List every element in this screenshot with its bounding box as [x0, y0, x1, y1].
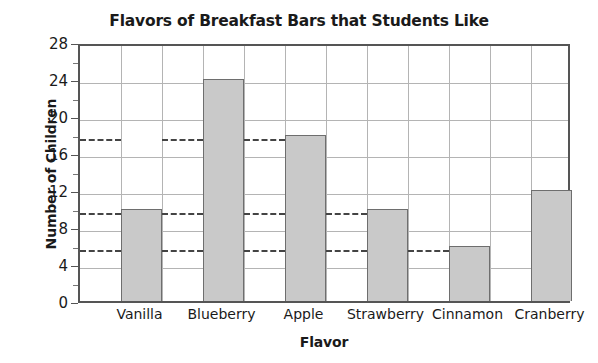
x-tick-label-blueberry: Blueberry [187, 306, 255, 322]
y-axis-title: Number of Children [43, 84, 59, 264]
x-axis-title: Flavor [78, 334, 570, 350]
chart-title: Flavors of Breakfast Bars that Students … [0, 12, 598, 30]
y-tick-label: 0 [28, 294, 68, 312]
y-tick-minor [73, 285, 78, 286]
y-tick-major [71, 303, 78, 304]
y-tick-major [71, 266, 78, 267]
y-tick-major [71, 81, 78, 82]
x-tick-label-strawberry: Strawberry [347, 306, 424, 322]
bar-cinnamon [449, 246, 490, 302]
bar-blueberry [203, 79, 244, 301]
x-tick-label-cranberry: Cranberry [514, 306, 584, 322]
y-tick-major [71, 118, 78, 119]
y-tick-label: 28 [28, 35, 68, 53]
x-tick-label-vanilla: Vanilla [116, 306, 162, 322]
y-tick-minor [73, 137, 78, 138]
y-tick-major [71, 229, 78, 230]
y-tick-major [71, 192, 78, 193]
y-tick-major [71, 44, 78, 45]
bar-apple [285, 135, 326, 302]
y-tick-minor [73, 100, 78, 101]
x-tick-label-cinnamon: Cinnamon [432, 306, 503, 322]
bar-strawberry [367, 209, 408, 302]
x-tick-label-apple: Apple [284, 306, 324, 322]
y-tick-minor [73, 248, 78, 249]
x-axis-tick-labels: VanillaBlueberryAppleStrawberryCinnamonC… [78, 306, 570, 330]
y-tick-minor [73, 174, 78, 175]
y-tick-major [71, 155, 78, 156]
plot-area [78, 44, 570, 303]
bar-cranberry [531, 190, 572, 301]
bars-group [80, 46, 568, 301]
y-tick-minor [73, 211, 78, 212]
bar-chart: Flavors of Breakfast Bars that Students … [0, 0, 598, 363]
y-tick-minor [73, 63, 78, 64]
bar-vanilla [121, 209, 162, 302]
